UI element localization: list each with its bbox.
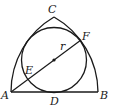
- label-d: D: [49, 95, 59, 108]
- label-a: A: [0, 89, 9, 102]
- label-b: B: [99, 89, 108, 102]
- geometry-diagram: C F r E A D B: [0, 0, 113, 109]
- label-f: F: [81, 30, 90, 43]
- label-e: E: [24, 64, 33, 77]
- label-c: C: [48, 3, 57, 16]
- label-r: r: [60, 40, 66, 53]
- center-point: [52, 58, 55, 61]
